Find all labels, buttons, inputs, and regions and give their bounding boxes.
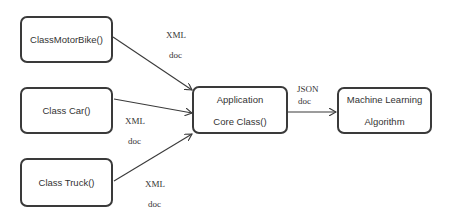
edge-label-truck-format: XML: [145, 179, 165, 189]
arrow-car-to-core: [114, 99, 192, 113]
node-label-line-1: Application: [217, 94, 263, 105]
node-application-core-class: Application Core Class(): [192, 86, 288, 134]
edge-label-core-doc: doc: [298, 96, 311, 106]
node-class-motorbike: ClassMotorBike(): [20, 16, 113, 63]
arrow-truck-to-core: [114, 134, 192, 181]
node-class-truck: Class Truck(): [20, 158, 113, 207]
node-label-line-2: Core Class(): [213, 116, 266, 127]
node-label: ClassMotorBike(): [30, 34, 103, 45]
edge-label-car-doc: doc: [128, 136, 141, 146]
edge-label-car-format: XML: [125, 116, 145, 126]
edge-label-motorbike-format: XML: [166, 30, 186, 40]
node-machine-learning-algorithm: Machine Learning Algorithm: [337, 87, 432, 134]
edge-label-truck-doc: doc: [148, 199, 161, 209]
arrow-motorbike-to-core: [113, 37, 192, 90]
node-label: Class Car(): [42, 105, 90, 116]
node-label: Class Truck(): [39, 177, 95, 188]
diagram-canvas: ClassMotorBike() Class Car() Class Truck…: [0, 0, 449, 221]
edge-label-motorbike-doc: doc: [169, 50, 182, 60]
node-label-line-1: Machine Learning: [347, 94, 423, 105]
node-label-line-2: Algorithm: [364, 116, 404, 127]
node-class-car: Class Car(): [20, 87, 113, 134]
edge-label-core-format: JSON: [297, 84, 319, 94]
